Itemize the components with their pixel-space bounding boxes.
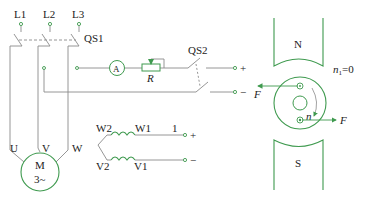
terminal-u: U [10, 142, 18, 154]
terminal-v: V [42, 142, 50, 154]
label-r: R [146, 72, 154, 84]
coil-plus: + [190, 129, 196, 141]
terminal-w: W [72, 142, 83, 154]
label-w2: W2 [96, 122, 112, 134]
force-left-label: F [253, 88, 261, 100]
label-s: S [295, 157, 301, 169]
ammeter-label: A [113, 64, 120, 74]
label-qs1: QS1 [84, 32, 104, 44]
circuit-diagram: L1 L2 L3 [0, 0, 365, 197]
label-l3: L3 [72, 8, 85, 20]
label-l1: L1 [14, 8, 26, 20]
label-v2: V2 [96, 160, 109, 172]
label-qs2: QS2 [188, 44, 208, 56]
terminal-minus: − [240, 86, 246, 98]
force-right-label: F [339, 114, 347, 126]
speed-label: n1=0 [333, 63, 354, 77]
rheostat-icon [142, 64, 160, 71]
coil-w-icon [111, 132, 135, 135]
motor-label: M [35, 159, 45, 171]
label-v1: V1 [134, 160, 147, 172]
label-l2: L2 [43, 8, 55, 20]
coil-minus: − [190, 154, 196, 166]
coil-v-icon [111, 157, 135, 160]
motor-type: 3~ [34, 173, 46, 185]
supply-terminals [19, 22, 80, 25]
terminal-plus: + [240, 62, 246, 74]
label-n: N [294, 38, 302, 50]
shaft-icon [293, 96, 307, 110]
label-w1: W1 [135, 122, 151, 134]
label-1: 1 [172, 122, 178, 134]
